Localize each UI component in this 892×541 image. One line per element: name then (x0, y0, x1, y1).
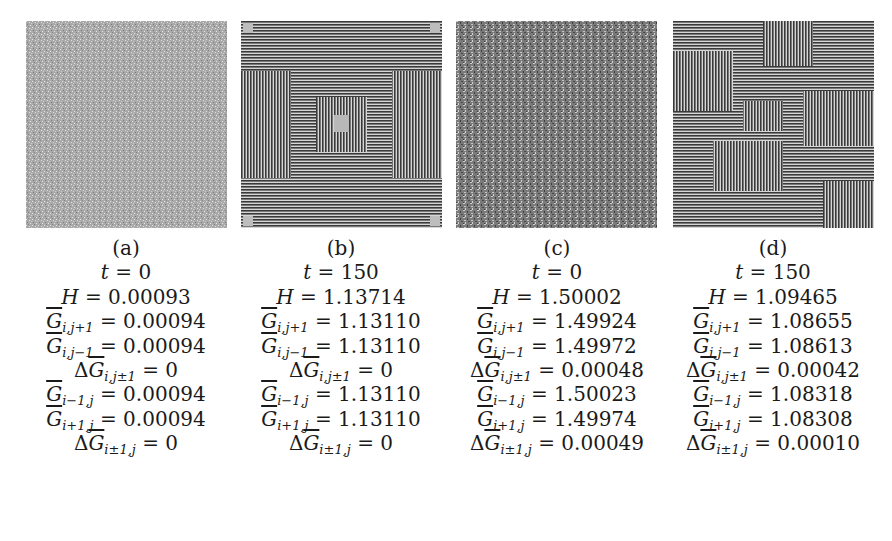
g-iplus1-j: Gi+1,j = 1.08308 (665, 407, 881, 431)
delta-g-ipm1-j: ΔGi±1,j = 0 (233, 431, 449, 455)
g-i-jminus1: Gi,j−1 = 1.13110 (233, 334, 449, 358)
delta-g-i-jpm1: ΔGi,j±1 = 0 (233, 358, 449, 382)
delta-g-i-jpm1: ΔGi,j±1 = 0 (18, 358, 234, 382)
figure: (a) t = 0 H = 0.00093 Gi,j+1 = 0.00094 G… (0, 0, 892, 541)
caption-c: (c) t = 0 H = 1.50002 Gi,j+1 = 1.49924 G… (449, 236, 665, 456)
panel-a (26, 21, 242, 228)
panel-b (241, 21, 457, 228)
g-i-jplus1: Gi,j+1 = 1.08655 (665, 309, 881, 333)
entropy-value: H = 1.50002 (449, 285, 665, 309)
entropy-value: H = 0.00093 (18, 285, 234, 309)
panel-label: (d) (665, 236, 881, 260)
delta-g-i-jpm1: ΔGi,j±1 = 0.00042 (665, 358, 881, 382)
delta-g-ipm1-j: ΔGi±1,j = 0.00010 (665, 431, 881, 455)
g-iminus1-j: Gi−1,j = 1.50023 (449, 382, 665, 406)
delta-g-ipm1-j: ΔGi±1,j = 0 (18, 431, 234, 455)
caption-a: (a) t = 0 H = 0.00093 Gi,j+1 = 0.00094 G… (18, 236, 234, 456)
caption-d: (d) t = 150 H = 1.09465 Gi,j+1 = 1.08655… (665, 236, 881, 456)
g-iplus1-j: Gi+1,j = 1.13110 (233, 407, 449, 431)
panel-label: (c) (449, 236, 665, 260)
delta-g-i-jpm1: ΔGi,j±1 = 0.00048 (449, 358, 665, 382)
panel-label: (b) (233, 236, 449, 260)
caption-b: (b) t = 150 H = 1.13714 Gi,j+1 = 1.13110… (233, 236, 449, 456)
g-i-jplus1: Gi,j+1 = 1.13110 (233, 309, 449, 333)
time-value: t = 0 (18, 260, 234, 284)
panel-label: (a) (18, 236, 234, 260)
g-iminus1-j: Gi−1,j = 1.08318 (665, 382, 881, 406)
panel-a-image (26, 21, 227, 228)
g-i-jminus1: Gi,j−1 = 1.08613 (665, 334, 881, 358)
g-iminus1-j: Gi−1,j = 0.00094 (18, 382, 234, 406)
panel-c (456, 21, 672, 228)
g-iplus1-j: Gi+1,j = 1.49974 (449, 407, 665, 431)
delta-g-ipm1-j: ΔGi±1,j = 0.00049 (449, 431, 665, 455)
panel-b-image (241, 21, 442, 228)
entropy-value: H = 1.13714 (233, 285, 449, 309)
time-value: t = 150 (665, 260, 881, 284)
panel-c-image (456, 21, 657, 228)
panel-d-image (673, 21, 874, 228)
entropy-value: H = 1.09465 (665, 285, 881, 309)
g-iplus1-j: Gi+1,j = 0.00094 (18, 407, 234, 431)
g-i-jminus1: Gi,j−1 = 1.49972 (449, 334, 665, 358)
panel-d (673, 21, 889, 228)
g-iminus1-j: Gi−1,j = 1.13110 (233, 382, 449, 406)
g-i-jplus1: Gi,j+1 = 1.49924 (449, 309, 665, 333)
time-value: t = 150 (233, 260, 449, 284)
g-i-jplus1: Gi,j+1 = 0.00094 (18, 309, 234, 333)
time-value: t = 0 (449, 260, 665, 284)
g-i-jminus1: Gi,j−1 = 0.00094 (18, 334, 234, 358)
